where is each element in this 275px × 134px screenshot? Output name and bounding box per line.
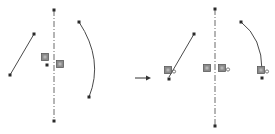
sketch-point[interactable] bbox=[33, 33, 36, 36]
coincident-relation-icon[interactable] bbox=[258, 67, 269, 74]
relation-badge-icon bbox=[265, 70, 268, 73]
sketch-line[interactable] bbox=[10, 34, 34, 75]
sketch-point[interactable] bbox=[78, 21, 81, 24]
vertical-relation-icon[interactable] bbox=[57, 61, 64, 68]
vertical-relation-icon[interactable] bbox=[204, 65, 211, 72]
sketch-point[interactable] bbox=[240, 21, 243, 24]
sketch-point[interactable] bbox=[214, 125, 217, 128]
sketch-point[interactable] bbox=[53, 120, 56, 123]
transition-arrow-icon bbox=[135, 76, 151, 81]
sketch-point[interactable] bbox=[53, 9, 56, 12]
sketch-point[interactable] bbox=[261, 77, 264, 80]
sketch-arc[interactable] bbox=[79, 22, 95, 97]
before-sketch bbox=[9, 9, 95, 123]
sketch-point[interactable] bbox=[88, 96, 91, 99]
relation-badge-icon bbox=[172, 70, 175, 73]
sketch-point[interactable] bbox=[214, 8, 217, 11]
sketch-arc[interactable] bbox=[241, 22, 262, 70]
sketch-diagram bbox=[0, 0, 275, 134]
sketch-point[interactable] bbox=[9, 74, 12, 77]
relation-badge-icon bbox=[226, 68, 229, 71]
sketch-point[interactable] bbox=[46, 64, 49, 67]
after-sketch bbox=[165, 8, 269, 128]
sketch-canvas bbox=[0, 0, 275, 134]
midpoint-relation-icon[interactable] bbox=[42, 54, 49, 61]
sketch-point[interactable] bbox=[193, 33, 196, 36]
coincident-relation-icon[interactable] bbox=[219, 65, 230, 72]
sketch-point[interactable] bbox=[168, 78, 171, 81]
